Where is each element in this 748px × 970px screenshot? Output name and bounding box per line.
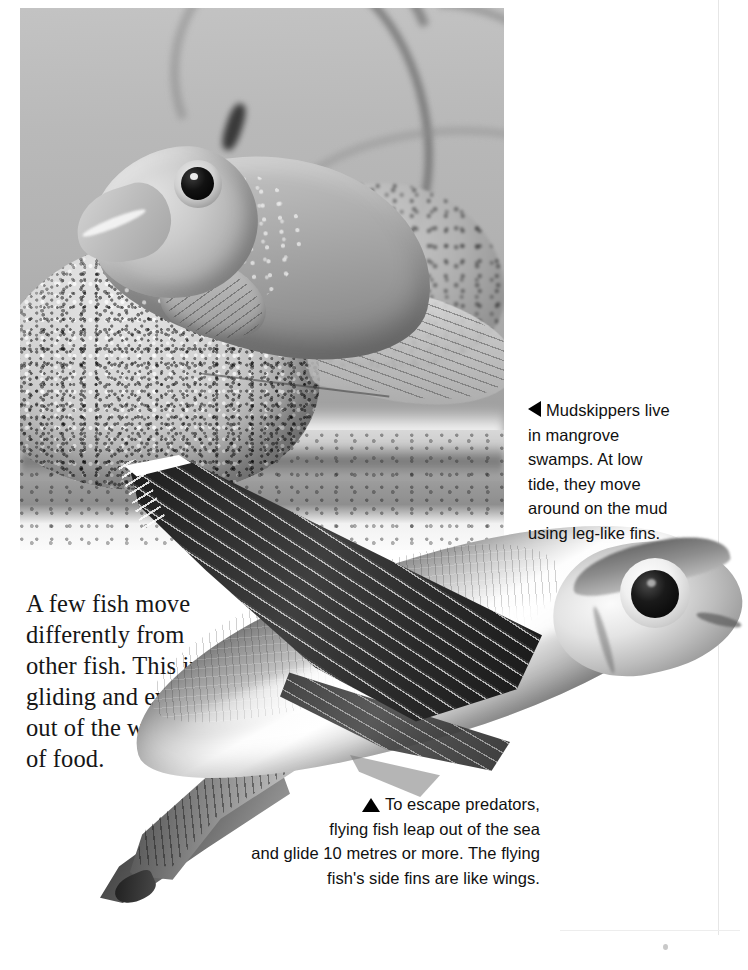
page-speck xyxy=(663,944,668,950)
mudskipper-photo xyxy=(20,8,504,550)
mudskipper-eye-pupil xyxy=(181,167,214,200)
flyingfish-tail-tip xyxy=(111,868,160,909)
flyingfish-gill-line xyxy=(591,605,618,674)
page-edge-line-bottom xyxy=(560,930,740,931)
mudskipper-caption-text: Mudskippers live in mangrove swamps. At … xyxy=(528,401,670,542)
flyingfish-eye-pupil xyxy=(631,570,679,618)
flyingfish-eye-socket xyxy=(620,558,690,628)
mudskipper-eye-glint xyxy=(190,173,198,180)
flyingfish-caption: To escape predators, flying fish leap ou… xyxy=(230,792,540,890)
mudskipper-caption: Mudskippers live in mangrove swamps. At … xyxy=(528,398,728,545)
mudskipper-fish xyxy=(80,126,480,456)
flyingfish-anal-fin xyxy=(350,755,440,797)
flyingfish-caption-text: To escape predators, flying fish leap ou… xyxy=(251,795,540,887)
body-paragraph: A few fish move differently from other f… xyxy=(26,588,356,774)
flyingfish-eye-glint xyxy=(647,579,656,587)
triangle-left-icon xyxy=(528,401,541,417)
flyingfish-mouth xyxy=(695,610,742,631)
triangle-up-icon xyxy=(362,798,380,812)
flyingfish-head xyxy=(540,523,748,692)
